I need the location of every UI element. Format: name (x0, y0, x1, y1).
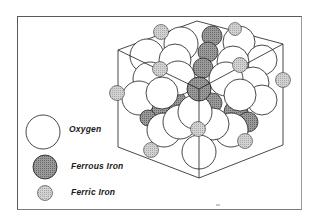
legend-label-ferric-iron: Ferric Iron (71, 187, 115, 197)
legend-label-oxygen: Oxygen (69, 124, 101, 134)
legend-label-ferrous-iron: Ferrous Iron (71, 161, 123, 171)
ferric-iron-legend-icon (38, 186, 53, 201)
page-mark (216, 204, 220, 206)
crystal-structure-diagram (0, 0, 319, 222)
oxygen-legend-icon (26, 115, 60, 149)
ferrous-iron-legend-icon (33, 155, 57, 179)
legend-symbols (26, 115, 60, 201)
